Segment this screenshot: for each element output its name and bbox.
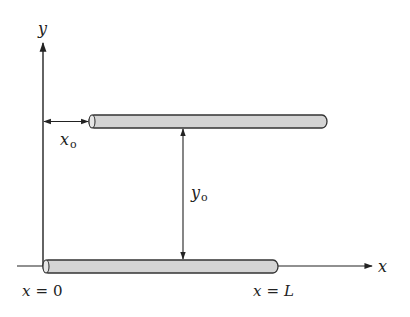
- y-offset-label: yo: [190, 183, 208, 204]
- upper-rod: [89, 115, 327, 128]
- upper-rod-end-cap: [89, 115, 95, 128]
- x-start-label: x=0: [22, 282, 63, 300]
- lower-rod: [43, 260, 278, 273]
- x-offset-label: xo: [60, 130, 77, 151]
- x-axis-label: x: [378, 257, 387, 276]
- y-axis-label: y: [37, 19, 48, 38]
- lower-rod-end-cap: [43, 260, 49, 273]
- rod-diagram: y x xo yo x=0 x=L: [0, 0, 410, 317]
- x-end-label: x=L: [253, 282, 294, 300]
